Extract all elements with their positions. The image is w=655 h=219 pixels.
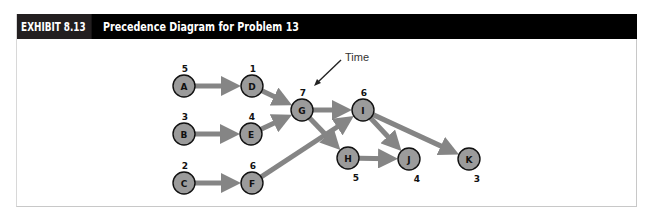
edge-d-to-g [262,91,284,102]
edge-f-to-i [261,121,346,177]
node-duration: 4 [414,174,420,184]
node-letter: D [248,82,255,92]
node-k: K3 [458,148,480,184]
node-i: I6 [352,88,374,121]
node-letter: K [466,155,474,165]
node-letter: G [298,106,305,116]
node-duration: 3 [182,112,188,122]
node-j: J4 [398,148,420,184]
node-e: E4 [240,112,262,145]
node-letter: H [344,154,352,164]
node-letter: J [406,155,410,165]
node-duration: 5 [353,173,359,183]
node-duration: 5 [182,64,188,74]
node-g: G7 [291,88,313,121]
precedence-diagram: A5B3C2D1E4F6G7H5I6J4K3 Time [0,0,655,219]
node-letter: F [249,179,255,189]
node-duration: 3 [474,174,480,184]
node-duration: 7 [300,88,306,98]
node-letter: C [181,179,188,189]
time-annotation: Time [314,51,369,86]
node-letter: B [181,130,188,140]
node-c: C2 [173,161,195,194]
node-letter: A [181,82,188,92]
node-h: H5 [337,147,359,183]
node-letter: I [361,106,364,116]
node-b: B3 [173,112,195,145]
time-label: Time [345,51,369,63]
edge-e-to-g [261,119,284,130]
node-duration: 4 [249,112,255,122]
time-pointer-arrow [318,60,341,82]
node-d: D1 [241,64,263,97]
node-letter: E [248,130,254,140]
node-duration: 6 [361,88,367,98]
node-f: F6 [241,161,263,194]
node-duration: 1 [250,64,256,74]
node-duration: 2 [182,161,188,171]
node-duration: 6 [250,161,256,171]
node-a: A5 [173,64,195,97]
